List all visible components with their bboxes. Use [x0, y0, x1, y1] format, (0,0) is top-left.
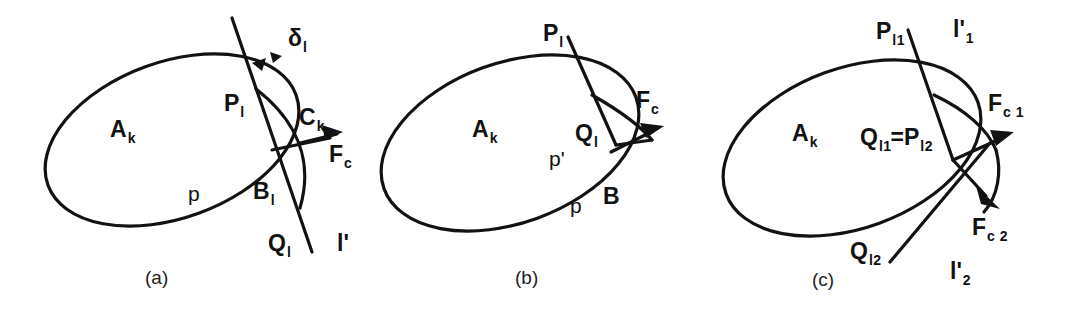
panel-a: Ak δl Pl Ck Fc p: [0, 0, 360, 321]
label-line-2-c: l'2: [950, 260, 970, 283]
region-ellipse-b: [357, 22, 664, 264]
force-arrow-1-c: [953, 130, 1014, 160]
label-path-p-a: p: [188, 183, 200, 204]
label-point-b-a: Bl: [253, 180, 274, 203]
label-equality-c: Ql1 = Pl2: [860, 126, 932, 149]
label-point-q-b: Ql: [575, 122, 597, 145]
caption-a: (a): [145, 268, 168, 287]
label-point-p-b: Pl: [543, 22, 563, 45]
figure-container: Ak δl Pl Ck Fc p: [0, 0, 1067, 321]
label-region-a: Ak: [110, 118, 135, 141]
label-line-a: l': [337, 232, 349, 255]
delta-arrowhead-a: [252, 52, 282, 71]
label-point-q-a: Ql: [268, 232, 290, 255]
label-point-b-b: B: [603, 185, 620, 208]
label-point-p-a: Pl: [224, 92, 244, 115]
curved-path-1-c: [934, 95, 996, 150]
label-line-1-c: l'1: [953, 18, 973, 41]
label-point-c-a: Ck: [299, 106, 324, 129]
region-ellipse-c: [699, 27, 1006, 269]
panel-c-graphic: [700, 0, 1067, 321]
cutting-line-2-c: [890, 143, 990, 262]
label-path-p-b: p: [570, 195, 582, 216]
label-force-1-c: Fc 1: [988, 92, 1023, 115]
label-point-p1-c: Pl1: [876, 20, 904, 43]
panel-b: Pl Fc Ak Ql p' p B: [360, 0, 710, 321]
label-path-p-prime-b: p': [549, 148, 565, 169]
label-point-q2-c: Ql2: [850, 240, 881, 263]
label-region-c: Ak: [792, 122, 817, 145]
label-force-a: Fc: [329, 143, 351, 166]
panel-c: Pl1 l'1 Fc 1 Ak Ql1 = Pl2: [700, 0, 1067, 321]
label-force-2-c: Fc 2: [972, 216, 1007, 239]
caption-b: (b): [515, 268, 538, 287]
caption-c: (c): [812, 270, 834, 289]
label-region-b: Ak: [472, 118, 497, 141]
label-force-b: Fc: [636, 89, 658, 112]
label-delta-a: δl: [288, 27, 306, 50]
